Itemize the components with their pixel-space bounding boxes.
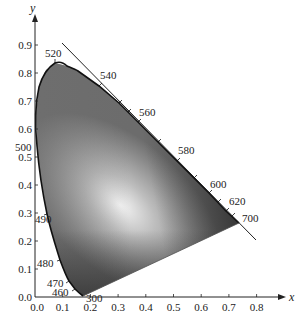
x-tick-label: 0.3 [111, 301, 125, 313]
y-axis-arrow-icon [32, 14, 38, 22]
y-axis-label: y [29, 1, 36, 15]
y-tick-label: 0.4 [18, 179, 32, 191]
x-tick-labels: 0.0 0.1 0.2 0.3 0.4 0.5 0.6 0.7 0.8 [30, 301, 264, 313]
y-tick-labels: 0.0 0.1 0.2 0.3 0.4 0.5 0.6 0.7 0.8 0.9 [18, 39, 32, 303]
wavelength-label-480: 480 [37, 257, 54, 269]
wavelength-label-540: 540 [100, 69, 117, 81]
wavelength-label-580: 580 [178, 144, 195, 156]
y-tick-label: 0.8 [18, 67, 32, 79]
y-tick-label: 0.9 [18, 39, 32, 51]
wavelength-label-300: 300 [86, 292, 103, 304]
x-tick-label: 0.4 [139, 301, 153, 313]
x-axis-arrow-icon [278, 294, 286, 300]
y-tick-label: 0.6 [18, 123, 32, 135]
chromaticity-diagram: x y 0.0 0.1 0.2 0.3 0.4 0.5 0.6 0.7 0.8 … [0, 0, 303, 330]
wavelength-label-620: 620 [229, 195, 246, 207]
y-tick-label: 0.2 [18, 235, 32, 247]
x-tick-label: 0.8 [250, 301, 264, 313]
x-tick-label: 0.7 [222, 301, 236, 313]
wavelength-label-490: 490 [35, 213, 52, 225]
wavelength-label-600: 600 [210, 178, 227, 190]
wavelength-label-560: 560 [139, 106, 156, 118]
x-tick-label: 0.6 [194, 301, 208, 313]
y-tick-label: 0.1 [18, 263, 32, 275]
y-tick-label: 0.3 [18, 207, 32, 219]
x-tick-label: 0.0 [30, 301, 44, 313]
wavelength-label-520: 520 [45, 47, 62, 59]
y-tick-label: 0.7 [18, 95, 32, 107]
x-tick-label: 0.1 [56, 301, 70, 313]
y-tick-label: 0.0 [18, 291, 32, 303]
x-axis-label: x [288, 290, 295, 304]
wavelength-label-500: 500 [15, 141, 32, 153]
wavelength-label-460: 460 [52, 286, 69, 298]
x-tick-label: 0.5 [167, 301, 181, 313]
wavelength-label-700: 700 [242, 212, 259, 224]
